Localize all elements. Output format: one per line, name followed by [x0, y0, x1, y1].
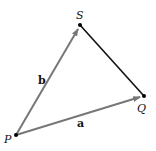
label-b: b: [38, 74, 46, 87]
label-s: S: [76, 9, 84, 22]
point-s: [78, 23, 82, 27]
vector-diagram: S Q P b a: [0, 0, 156, 151]
label-p: P: [3, 133, 12, 146]
point-p: [14, 133, 18, 137]
label-q: Q: [137, 102, 146, 115]
label-a: a: [77, 117, 84, 130]
point-q: [142, 94, 146, 98]
segment-sq: [80, 25, 144, 96]
